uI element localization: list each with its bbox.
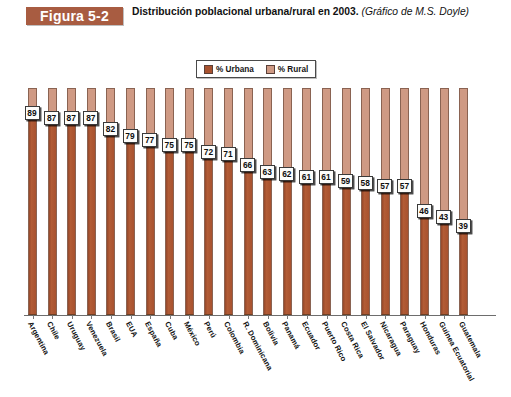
x-axis-tick [111, 315, 112, 319]
value-label-urbana: 58 [358, 176, 373, 190]
value-label-urbana: 57 [377, 179, 392, 193]
bar-column[interactable] [283, 88, 292, 315]
bar-segment-rural[interactable] [381, 88, 390, 186]
bar-column[interactable] [400, 88, 409, 315]
bar-segment-rural[interactable] [165, 88, 174, 145]
value-label-urbana: 66 [240, 158, 255, 172]
bar-segment-urbana[interactable] [48, 118, 57, 315]
bar-segment-urbana[interactable] [87, 118, 96, 315]
bar-segment-urbana[interactable] [28, 113, 37, 315]
bar-segment-urbana[interactable] [361, 183, 370, 315]
x-axis-tick [385, 315, 386, 319]
bar-column[interactable] [381, 88, 390, 315]
value-label-urbana: 61 [299, 170, 314, 184]
x-axis-tick [91, 315, 92, 319]
bar-segment-rural[interactable] [440, 88, 449, 217]
bar-segment-urbana[interactable] [185, 145, 194, 315]
bar-column[interactable] [263, 88, 272, 315]
bar-column[interactable] [28, 88, 37, 315]
bar-segment-urbana[interactable] [342, 181, 351, 315]
bar-segment-urbana[interactable] [381, 186, 390, 315]
x-axis-tick [229, 315, 230, 319]
bar-segment-rural[interactable] [302, 88, 311, 177]
bar-column[interactable] [459, 88, 468, 315]
bar-segment-rural[interactable] [263, 88, 272, 172]
x-axis-tick [170, 315, 171, 319]
x-axis-tick [189, 315, 190, 319]
x-axis-tick [307, 315, 308, 319]
value-label-urbana: 57 [397, 179, 412, 193]
bar-segment-rural[interactable] [204, 88, 213, 152]
x-axis-tick [150, 315, 151, 319]
value-label-urbana: 46 [417, 204, 432, 218]
bar-column[interactable] [146, 88, 155, 315]
bar-column[interactable] [244, 88, 253, 315]
bar-segment-urbana[interactable] [302, 177, 311, 315]
bar-column[interactable] [185, 88, 194, 315]
bar-segment-urbana[interactable] [322, 177, 331, 315]
bar-segment-urbana[interactable] [283, 174, 292, 315]
bar-segment-urbana[interactable] [224, 154, 233, 315]
x-axis-tick [346, 315, 347, 319]
x-axis-tick [327, 315, 328, 319]
x-axis-tick [72, 315, 73, 319]
x-axis-category-label: Bolivia [261, 320, 281, 347]
value-label-urbana: 71 [221, 147, 236, 161]
x-axis-category-label: Panamá [280, 320, 302, 350]
bar-segment-urbana[interactable] [126, 136, 135, 315]
bar-column[interactable] [322, 88, 331, 315]
bar-column[interactable] [420, 88, 429, 315]
value-label-urbana: 72 [201, 145, 216, 159]
x-axis-category-label: España [143, 320, 164, 349]
bar-segment-rural[interactable] [283, 88, 292, 174]
bar-column[interactable] [361, 88, 370, 315]
bar-segment-urbana[interactable] [106, 129, 115, 315]
x-axis-tick [52, 315, 53, 319]
bar-segment-rural[interactable] [420, 88, 429, 211]
bar-column[interactable] [224, 88, 233, 315]
bar-segment-rural[interactable] [185, 88, 194, 145]
x-axis-category-label: México [182, 320, 202, 347]
bar-segment-rural[interactable] [224, 88, 233, 154]
bar-segment-urbana[interactable] [146, 140, 155, 315]
bar-column[interactable] [165, 88, 174, 315]
bar-segment-urbana[interactable] [459, 226, 468, 315]
bar-segment-urbana[interactable] [204, 152, 213, 315]
x-axis-category-label: EUA [124, 320, 140, 339]
value-label-urbana: 89 [25, 106, 40, 120]
x-axis-category-label: Ecuador [300, 320, 323, 352]
x-axis-tick [209, 315, 210, 319]
value-label-urbana: 87 [44, 111, 59, 125]
x-axis-tick [131, 315, 132, 319]
x-axis-category-label: Perú [202, 320, 218, 339]
bar-segment-rural[interactable] [459, 88, 468, 226]
x-axis-tick [444, 315, 445, 319]
bar-segment-rural[interactable] [400, 88, 409, 186]
x-axis-category-label: Brasil [104, 320, 122, 343]
value-label-urbana: 87 [83, 111, 98, 125]
bar-segment-rural[interactable] [244, 88, 253, 165]
bar-segment-urbana[interactable] [420, 211, 429, 315]
value-label-urbana: 79 [123, 129, 138, 143]
bar-segment-rural[interactable] [361, 88, 370, 183]
x-axis-tick [268, 315, 269, 319]
value-label-urbana: 77 [142, 133, 157, 147]
value-label-urbana: 61 [319, 170, 334, 184]
bar-segment-rural[interactable] [342, 88, 351, 181]
bar-column[interactable] [204, 88, 213, 315]
bar-segment-urbana[interactable] [244, 165, 253, 315]
bar-column[interactable] [126, 88, 135, 315]
bar-segment-urbana[interactable] [440, 217, 449, 315]
x-axis-tick [464, 315, 465, 319]
bar-segment-urbana[interactable] [263, 172, 272, 315]
x-axis-tick [33, 315, 34, 319]
bar-column[interactable] [342, 88, 351, 315]
bar-column[interactable] [440, 88, 449, 315]
bar-segment-rural[interactable] [322, 88, 331, 177]
bar-segment-urbana[interactable] [165, 145, 174, 315]
bar-column[interactable] [302, 88, 311, 315]
bar-segment-urbana[interactable] [400, 186, 409, 315]
x-axis-category-label: Cuba [163, 320, 180, 341]
bar-segment-urbana[interactable] [67, 118, 76, 315]
x-axis-tick [366, 315, 367, 319]
